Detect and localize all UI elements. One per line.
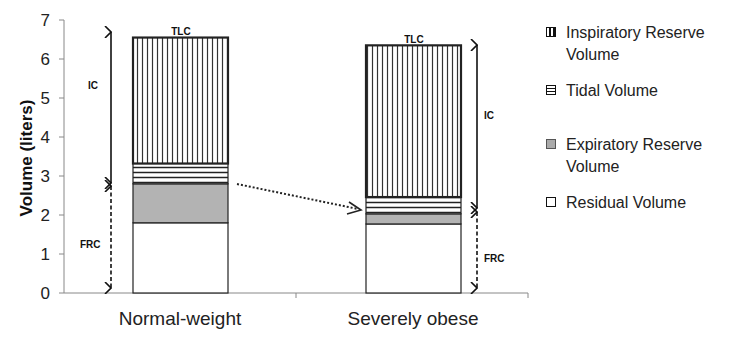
ic-label-obese: IC — [484, 110, 494, 121]
y-tick-label: 1 — [41, 245, 50, 264]
legend-label: Tidal Volume — [566, 80, 658, 102]
legend-swatch-icon — [546, 85, 556, 95]
bar-segment-expiratory-reserve-volume — [133, 184, 228, 223]
y-tick-label: 0 — [41, 284, 50, 303]
y-axis-title: Volume (liters) — [17, 100, 36, 217]
category-label-obese: Severely obese — [348, 308, 479, 329]
bar-segment-inspiratory-reserve-volume — [133, 38, 228, 164]
y-tick-label: 3 — [41, 167, 50, 186]
legend-label-line2: Volume — [566, 44, 705, 66]
y-tick-label: 4 — [41, 128, 50, 147]
frc-label-obese: FRC — [484, 253, 505, 264]
frc-label-normal: FRC — [80, 239, 101, 250]
bar-normal-weight — [133, 38, 228, 293]
bar-segment-inspiratory-reserve-volume — [366, 45, 461, 197]
legend-label-line2: Volume — [566, 156, 702, 178]
legend-item: Tidal Volume — [546, 80, 658, 102]
legend-label: Inspiratory Reserve — [566, 22, 705, 44]
y-tick-label: 7 — [41, 11, 50, 30]
tlc-label-obese: TLC — [404, 34, 423, 45]
legend-label: Residual Volume — [566, 192, 686, 214]
tlc-label-normal: TLC — [171, 26, 190, 37]
bar-segment-expiratory-reserve-volume — [366, 214, 461, 224]
y-tick-label: 2 — [41, 206, 50, 225]
legend-item: Expiratory ReserveVolume — [546, 134, 702, 178]
ic-label-normal: IC — [88, 80, 98, 91]
bar-severely-obese — [366, 45, 461, 293]
frc-shift-arrow — [237, 184, 361, 214]
bar-segment-tidal-volume — [133, 164, 228, 184]
legend-item: Residual Volume — [546, 192, 686, 214]
category-label-normal: Normal-weight — [119, 308, 242, 329]
y-tick-label: 5 — [41, 89, 50, 108]
bar-segment-residual-volume — [366, 224, 461, 293]
legend-label: Expiratory Reserve — [566, 134, 702, 156]
legend-item: Inspiratory ReserveVolume — [546, 22, 705, 66]
y-tick-label: 6 — [41, 50, 50, 69]
legend-swatch-icon — [546, 197, 556, 207]
y-axis: 01234567 — [41, 11, 64, 303]
stacked-bars — [133, 38, 461, 293]
bar-segment-residual-volume — [133, 223, 228, 293]
bar-segment-tidal-volume — [366, 197, 461, 214]
x-axis — [64, 293, 528, 298]
legend-swatch-icon — [546, 27, 556, 37]
legend-swatch-icon — [546, 139, 556, 149]
